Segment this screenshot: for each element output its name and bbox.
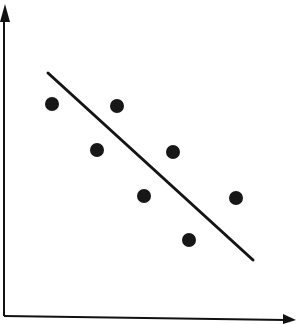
scatter-plot-figure bbox=[0, 0, 297, 324]
data-point bbox=[137, 189, 151, 203]
y-axis-arrowhead-icon bbox=[0, 4, 10, 22]
x-axis-arrowhead-icon bbox=[283, 314, 296, 324]
data-point bbox=[110, 99, 124, 113]
data-point bbox=[90, 143, 104, 157]
data-point bbox=[229, 191, 243, 205]
data-point bbox=[45, 97, 59, 111]
data-point bbox=[182, 233, 196, 247]
x-axis-line bbox=[4, 316, 285, 320]
regression-line bbox=[48, 73, 253, 260]
plot-canvas bbox=[0, 0, 297, 324]
data-point bbox=[166, 145, 180, 159]
trend-line-group bbox=[48, 73, 253, 260]
